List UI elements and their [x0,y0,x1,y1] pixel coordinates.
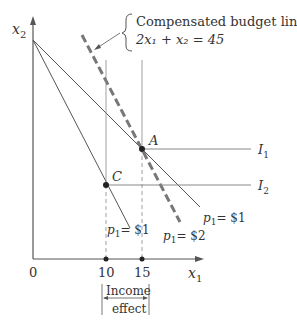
tick-label-10: 10 [98,266,115,279]
price-label-steep: p1= $1 [107,224,150,239]
point-C-label: C [112,170,122,183]
price-label-original: p1= $1 [203,212,246,227]
annotation-arrow [97,33,120,48]
x-axis-label: x1 [188,266,202,284]
tick-15-dot [140,257,145,262]
budget-line-steep [33,40,130,228]
annotation-arrow-head-icon [94,44,101,50]
compensated-budget-line [82,35,180,222]
y-axis-arrow-icon [30,16,36,25]
income-effect-line2: effect [112,303,146,315]
income-effect-line1: Income [106,285,151,297]
point-A [139,146,145,152]
point-A-label: A [149,134,158,147]
origin-label: 0 [29,266,37,279]
I2-label: I2 [258,179,269,196]
annotation-title: Compensated budget line [136,15,297,28]
tick-label-15: 15 [134,266,151,279]
price-label-compensated: p1= $2 [163,230,206,245]
I1-label: I1 [258,143,269,160]
annotation-equation: 2x₁ + x₂ = 45 [136,33,224,46]
tick-10-dot [104,257,109,262]
diagram-canvas [0,0,297,330]
y-axis-label: x2 [12,22,26,40]
brace-icon [122,14,132,51]
point-C [103,182,109,188]
x-axis-arrow-icon [195,256,204,262]
